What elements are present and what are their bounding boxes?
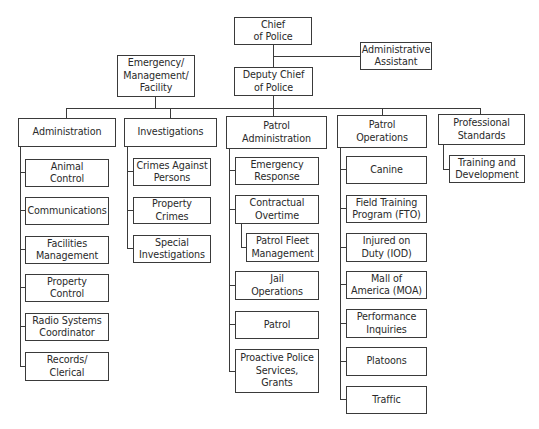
unit-mall-of-america: Mall of America (MOA) <box>346 271 427 299</box>
division-investigations: Investigations <box>124 118 217 147</box>
unit-property-control: Property Control <box>25 274 109 302</box>
unit-special-investigations: Special Investigations <box>133 235 211 263</box>
unit-patrol-fleet-management: Patrol Fleet Management <box>246 233 319 262</box>
unit-platoons: Platoons <box>346 347 427 376</box>
unit-animal-control: Animal Control <box>25 159 109 187</box>
unit-records-clerical: Records/ Clerical <box>25 352 109 381</box>
unit-patrol: Patrol <box>235 311 319 339</box>
unit-field-training-program: Field Training Program (FTO) <box>346 195 427 223</box>
unit-proactive-police-services-grants: Proactive Police Services, Grants <box>235 349 319 393</box>
unit-emergency-response: Emergency Response <box>235 157 319 185</box>
division-administration: Administration <box>18 118 116 147</box>
connector <box>20 146 21 367</box>
connector <box>66 108 67 118</box>
connector <box>273 95 274 108</box>
unit-jail-operations: Jail Operations <box>235 271 319 300</box>
unit-training-and-development: Training and Development <box>449 155 525 183</box>
division-patrol-administration: Patrol Administration <box>226 116 327 149</box>
connector <box>273 56 360 57</box>
division-patrol-operations: Patrol Operations <box>337 115 427 148</box>
connector <box>241 223 242 247</box>
org-chart: Chief of Police Administrative Assistant… <box>0 0 539 429</box>
unit-traffic: Traffic <box>346 386 427 414</box>
unit-canine: Canine <box>346 156 427 184</box>
unit-communications: Communications <box>25 197 109 225</box>
chief-of-police-box: Chief of Police <box>234 17 312 45</box>
connector <box>155 96 156 108</box>
unit-property-crimes: Property Crimes <box>133 197 211 224</box>
connector <box>340 147 341 400</box>
unit-performance-inquiries: Performance Inquiries <box>346 309 427 338</box>
unit-contractual-overtime: Contractual Overtime <box>235 195 319 224</box>
connector <box>273 108 274 116</box>
unit-crimes-against-persons: Crimes Against Persons <box>133 158 211 186</box>
administrative-assistant-box: Administrative Assistant <box>360 42 432 70</box>
connector <box>170 108 171 118</box>
unit-facilities-management: Facilities Management <box>25 236 109 264</box>
connector <box>229 148 230 372</box>
connector <box>443 144 444 169</box>
emergency-management-facility-box: Emergency/ Management/ Facility <box>117 55 195 97</box>
connector <box>127 146 128 249</box>
deputy-chief-box: Deputy Chief of Police <box>234 67 313 96</box>
unit-injured-on-duty: Injured on Duty (IOD) <box>346 233 427 262</box>
unit-radio-systems-coordinator: Radio Systems Coordinator <box>25 313 109 341</box>
connector <box>382 108 383 115</box>
division-professional-standards: Professional Standards <box>438 114 525 145</box>
